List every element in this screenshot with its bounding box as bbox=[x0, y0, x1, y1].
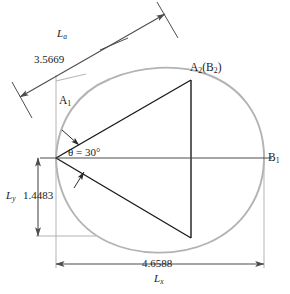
point-label-a1: A1 bbox=[59, 95, 71, 108]
point-label-b1: B1 bbox=[268, 152, 280, 165]
leader-line-la bbox=[100, 38, 128, 50]
point-label-a2b2: A2(B2) bbox=[190, 62, 221, 75]
lx-subscript: x bbox=[160, 277, 163, 286]
dimension-value-lx: 4.6588 bbox=[142, 258, 172, 269]
ly-subscript: y bbox=[12, 194, 15, 203]
dimension-extension-la-lower bbox=[12, 82, 32, 118]
dimension-label-ly: Ly bbox=[6, 190, 15, 202]
egg-shape-curve bbox=[56, 68, 264, 253]
angle-arrow-upper bbox=[62, 130, 79, 145]
la-subscript: a bbox=[63, 32, 67, 41]
b1-subscript: 1 bbox=[276, 156, 280, 165]
angle-label: θ = 30° bbox=[68, 147, 100, 158]
dimension-label-lx: Lx bbox=[154, 273, 163, 285]
dimension-value-la: 3.5669 bbox=[34, 54, 64, 65]
b2-open-paren: (B bbox=[202, 61, 214, 73]
triangle-edge-apex-to-lower bbox=[56, 158, 191, 238]
dimension-extension-la-upper bbox=[157, 2, 178, 38]
dimension-label-la: La bbox=[57, 28, 67, 40]
diagram-vector-layer bbox=[0, 0, 290, 294]
diagram-canvas: La 3.5669 A1 A2(B2) B1 θ = 30° Ly 1.4483… bbox=[0, 0, 290, 294]
dimension-value-ly: 1.4483 bbox=[23, 190, 53, 201]
b1-symbol: B bbox=[268, 151, 276, 163]
b2-close-paren: ) bbox=[218, 61, 222, 73]
a1-subscript: 1 bbox=[67, 99, 71, 108]
angle-arrow-lower bbox=[74, 172, 84, 188]
extension-line-a1-upper bbox=[56, 74, 86, 81]
